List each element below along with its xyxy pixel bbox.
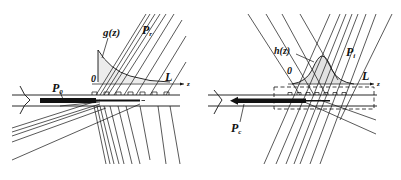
length-label: L xyxy=(361,69,369,83)
z-axis-label: z xyxy=(186,80,190,88)
pr-label: Pr xyxy=(142,23,152,38)
z-axis-arrow-icon xyxy=(370,82,374,85)
origin-label: 0 xyxy=(287,65,292,76)
grating-coupler-diagram: g(z) Pr P0 0 L z xyxy=(0,0,401,180)
length-label: L xyxy=(164,70,172,84)
right-panel: h(z) Pi Pc 0 L z xyxy=(208,14,392,164)
pc-leader xyxy=(240,104,244,122)
p0-label: P0 xyxy=(52,81,63,96)
z-axis-arrow-icon xyxy=(180,82,184,85)
h-z-leader xyxy=(296,54,314,62)
g-z-label: g(z) xyxy=(102,26,120,39)
h-z-label: h(z) xyxy=(274,45,290,57)
radiated-rays-down xyxy=(94,106,180,164)
incident-rays xyxy=(264,14,392,164)
mode-profile-icon xyxy=(214,90,222,114)
pc-label: Pc xyxy=(231,121,241,136)
mode-profile-icon xyxy=(20,86,30,114)
z-axis-label: z xyxy=(376,80,380,88)
origin-label: 0 xyxy=(91,73,96,84)
g-z-leader xyxy=(102,38,108,58)
left-panel: g(z) Pr P0 0 L z xyxy=(12,14,190,164)
coupled-beam-arrow-icon xyxy=(230,97,238,105)
coupled-beam xyxy=(236,99,306,104)
guided-beam xyxy=(40,98,96,103)
